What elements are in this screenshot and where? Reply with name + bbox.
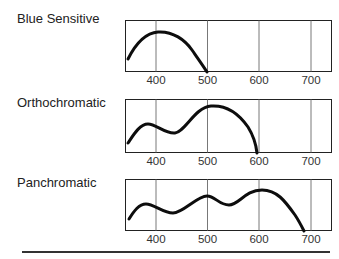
sensitivity-curve	[128, 106, 257, 153]
chart-panchromatic: 400 500 600 700	[125, 179, 332, 231]
sensitivity-curve	[129, 190, 304, 231]
bottom-rule	[22, 251, 330, 253]
tick-label-600: 600	[249, 155, 268, 167]
panel-title-orthochromatic: Orthochromatic	[17, 95, 106, 110]
tick-label-600: 600	[249, 74, 268, 86]
sensitivity-curve	[128, 32, 207, 72]
tick-label-400: 400	[146, 233, 165, 245]
tick-label-400: 400	[146, 155, 165, 167]
tick-label-500: 500	[198, 74, 217, 86]
tick-label-700: 700	[301, 155, 320, 167]
panel-title-blue-sensitive: Blue Sensitive	[17, 11, 99, 26]
tick-label-700: 700	[301, 233, 320, 245]
plot-area	[125, 20, 332, 72]
chart-blue-sensitive: 400 500 600 700	[125, 20, 332, 72]
tick-label-500: 500	[198, 155, 217, 167]
tick-label-500: 500	[198, 233, 217, 245]
plot-area	[125, 99, 332, 153]
tick-label-600: 600	[249, 233, 268, 245]
chart-orthochromatic: 400 500 600 700	[125, 99, 332, 153]
tick-label-400: 400	[146, 74, 165, 86]
plot-area	[125, 179, 332, 231]
tick-label-700: 700	[301, 74, 320, 86]
panel-title-panchromatic: Panchromatic	[17, 175, 96, 190]
